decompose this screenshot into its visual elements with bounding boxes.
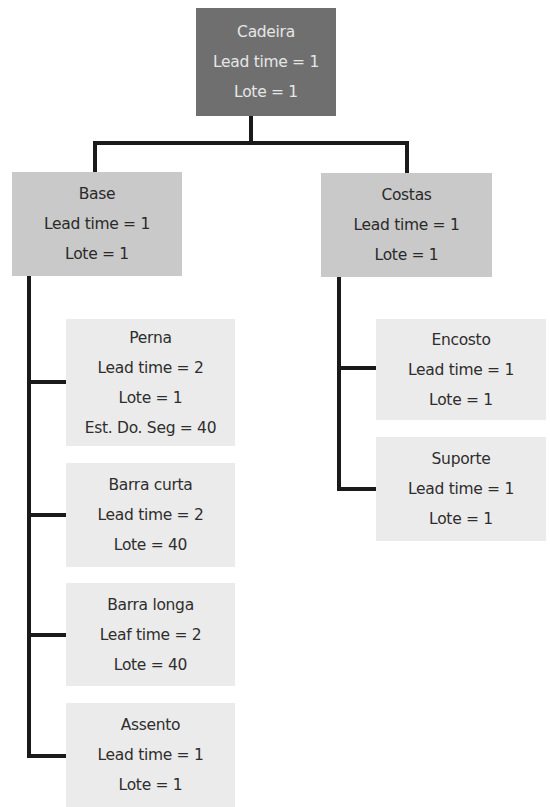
connector-root-horizontal [93, 141, 409, 145]
connector-to-encosto [337, 366, 376, 370]
node-name: Suporte [432, 444, 491, 474]
node-lead-time: Leaf time = 2 [100, 620, 202, 650]
connector-to-barra-longa [27, 633, 66, 637]
node-safety-stock: Est. Do. Seg = 40 [85, 413, 216, 443]
node-lead-time: Lead time = 1 [44, 209, 150, 239]
node-lead-time: Lead time = 1 [408, 474, 514, 504]
node-lote: Lote = 1 [375, 240, 439, 270]
node-lead-time: Lead time = 2 [98, 353, 204, 383]
node-lead-time: Lead time = 1 [213, 47, 319, 77]
node-name: Encosto [431, 325, 490, 355]
connector-to-costas [405, 141, 409, 173]
connector-base-trunk [27, 276, 31, 758]
node-name: Assento [121, 710, 181, 740]
node-name: Cadeira [237, 17, 295, 47]
node-name: Barra longa [107, 590, 194, 620]
node-lote: Lote = 1 [429, 385, 493, 415]
node-lote: Lote = 1 [119, 383, 183, 413]
node-lote: Lote = 1 [234, 77, 298, 107]
connector-to-assento [27, 754, 66, 758]
node-perna: Perna Lead time = 2 Lote = 1 Est. Do. Se… [66, 319, 235, 446]
connector-costas-trunk [337, 277, 341, 491]
node-lote: Lote = 40 [114, 530, 187, 560]
node-lead-time: Lead time = 1 [354, 210, 460, 240]
node-cadeira: Cadeira Lead time = 1 Lote = 1 [196, 8, 336, 116]
node-name: Barra curta [108, 470, 192, 500]
node-lead-time: Lead time = 1 [408, 355, 514, 385]
node-name: Perna [129, 323, 171, 353]
node-lote: Lote = 1 [65, 239, 129, 269]
node-barra-curta: Barra curta Lead time = 2 Lote = 40 [66, 463, 235, 567]
connector-to-barra-curta [27, 513, 66, 517]
node-assento: Assento Lead time = 1 Lote = 1 [66, 703, 235, 807]
node-lote: Lote = 1 [429, 504, 493, 534]
connector-to-base [93, 141, 97, 172]
node-lote: Lote = 1 [119, 770, 183, 800]
connector-to-suporte [337, 487, 376, 491]
node-name: Base [79, 179, 116, 209]
node-costas: Costas Lead time = 1 Lote = 1 [321, 173, 492, 277]
connector-to-perna [27, 380, 66, 384]
node-lead-time: Lead time = 2 [98, 500, 204, 530]
node-suporte: Suporte Lead time = 1 Lote = 1 [376, 437, 546, 541]
node-barra-longa: Barra longa Leaf time = 2 Lote = 40 [66, 583, 235, 686]
node-name: Costas [381, 180, 431, 210]
node-encosto: Encosto Lead time = 1 Lote = 1 [376, 319, 546, 420]
node-lote: Lote = 40 [114, 650, 187, 680]
node-lead-time: Lead time = 1 [98, 740, 204, 770]
node-base: Base Lead time = 1 Lote = 1 [12, 172, 182, 276]
